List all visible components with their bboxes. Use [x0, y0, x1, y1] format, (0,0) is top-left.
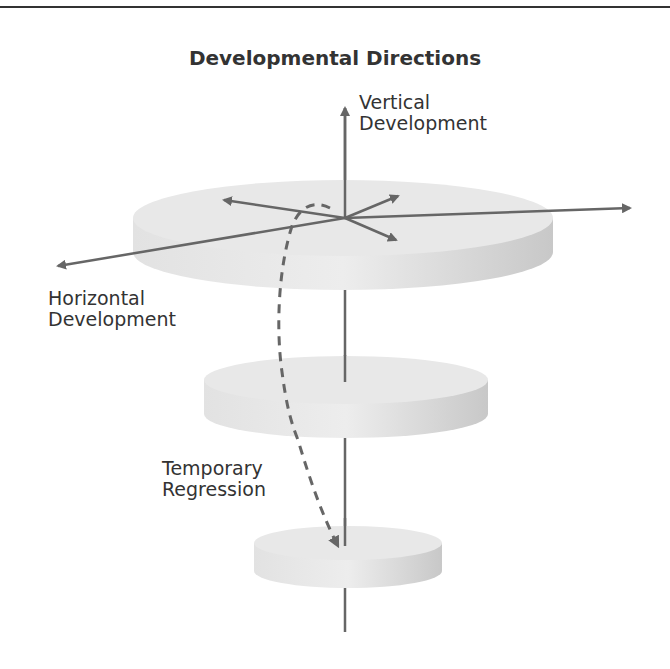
vertical-development-label: Vertical Development	[359, 92, 487, 134]
label-line: Development	[359, 112, 487, 134]
disc-bottom	[254, 526, 442, 588]
disc-top	[133, 180, 553, 290]
label-line: Development	[48, 308, 176, 330]
label-line: Temporary	[162, 457, 263, 479]
horizontal-development-label: Horizontal Development	[48, 288, 176, 330]
label-line: Vertical	[359, 91, 430, 113]
temporary-regression-label: Temporary Regression	[162, 458, 266, 500]
diagram-title: Developmental Directions	[0, 46, 670, 70]
label-line: Regression	[162, 478, 266, 500]
developmental-directions-diagram	[0, 0, 670, 669]
label-line: Horizontal	[48, 287, 145, 309]
